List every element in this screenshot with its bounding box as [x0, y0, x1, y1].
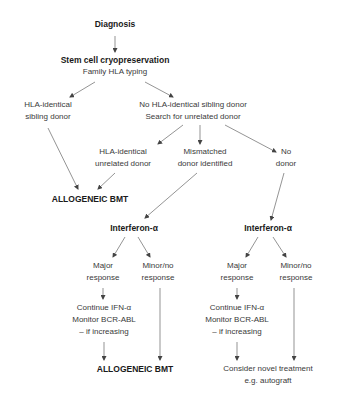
- node-hla-unrelated-line-1: HLA-identical: [95, 146, 151, 158]
- node-no-sibling-line-2: Search for unrelated donor: [139, 111, 247, 123]
- node-mismatched: Mismatched donor identified: [178, 146, 233, 170]
- node-novel-line-2: e.g. autograft: [223, 375, 312, 387]
- node-interferon-right-text: Interferon-α: [244, 222, 292, 234]
- node-major-right-line-2: response: [221, 272, 254, 284]
- node-hla-sibling-line-2: sibling donor: [24, 111, 72, 123]
- node-hla-unrelated-line-2: unrelated donor: [95, 158, 151, 170]
- node-mismatched-line-2: donor identified: [178, 158, 233, 170]
- node-stem-cell-title: Stem cell cryopreservation: [61, 54, 170, 66]
- node-continue-ifn-right: Continue IFN-α Monitor BCR-ABL – if incr…: [205, 302, 269, 338]
- node-allogeneic-bmt-1: ALLOGENEIC BMT: [52, 193, 129, 205]
- node-interferon-left: Interferon-α: [110, 222, 158, 234]
- node-diagnosis-text: Diagnosis: [95, 18, 136, 30]
- node-continue-ifn-left: Continue IFN-α Monitor BCR-ABL – if incr…: [72, 302, 136, 338]
- node-minor-response-right: Minor/no response: [280, 260, 313, 284]
- node-interferon-left-text: Interferon-α: [110, 222, 158, 234]
- node-allogeneic-bmt-1-text: ALLOGENEIC BMT: [52, 193, 129, 205]
- node-interferon-right: Interferon-α: [244, 222, 292, 234]
- node-major-response-right: Major response: [221, 260, 254, 284]
- node-novel-line-1: Consider novel treatment: [223, 363, 312, 375]
- edge-sibling-allobmt: [48, 128, 78, 189]
- edge-stemcell-sibling: [70, 82, 95, 97]
- node-continue-left-line-2: Monitor BCR-ABL: [72, 314, 136, 326]
- edge-ifnleft-majorleft: [113, 237, 125, 257]
- edge-nosibling-nodonor: [225, 125, 276, 152]
- edge-mismatched-ifnleft: [145, 173, 197, 218]
- node-major-response-left: Major response: [87, 260, 120, 284]
- node-minor-left-line-1: Minor/no: [142, 260, 175, 272]
- edge-ifnleft-minorleft: [138, 237, 150, 257]
- node-allogeneic-bmt-2: ALLOGENEIC BMT: [97, 363, 174, 375]
- edge-ifnright-minorright: [273, 237, 286, 257]
- node-continue-right-line-1: Continue IFN-α: [205, 302, 269, 314]
- node-continue-right-line-2: Monitor BCR-ABL: [205, 314, 269, 326]
- node-stem-cell: Stem cell cryopreservation Family HLA ty…: [61, 54, 170, 78]
- node-no-sibling: No HLA-identical sibling donor Search fo…: [139, 99, 247, 123]
- node-major-right-line-1: Major: [221, 260, 254, 272]
- node-continue-left-line-3: – if increasing: [72, 326, 136, 338]
- node-minor-response-left: Minor/no response: [142, 260, 175, 284]
- edge-ifnright-majorright: [246, 237, 258, 257]
- node-minor-left-line-2: response: [142, 272, 175, 284]
- node-diagnosis: Diagnosis: [95, 18, 136, 30]
- node-minor-right-line-1: Minor/no: [280, 260, 313, 272]
- node-major-left-line-1: Major: [87, 260, 120, 272]
- node-mismatched-line-1: Mismatched: [178, 146, 233, 158]
- node-hla-unrelated: HLA-identical unrelated donor: [95, 146, 151, 170]
- node-allogeneic-bmt-2-text: ALLOGENEIC BMT: [97, 363, 174, 375]
- node-major-left-line-2: response: [87, 272, 120, 284]
- edge-nodonor-ifnright: [271, 173, 284, 220]
- node-no-donor-line-2: donor: [276, 158, 296, 170]
- edge-unrelated-allobmt: [98, 173, 115, 189]
- node-novel-treatment: Consider novel treatment e.g. autograft: [223, 363, 312, 387]
- edge-stemcell-nosibling: [145, 82, 173, 97]
- edge-nosibling-unrelated: [158, 125, 183, 144]
- node-no-donor-line-1: No: [276, 146, 296, 158]
- node-hla-sibling-line-1: HLA-identical: [24, 99, 72, 111]
- node-minor-right-line-2: response: [280, 272, 313, 284]
- node-continue-left-line-1: Continue IFN-α: [72, 302, 136, 314]
- node-no-sibling-line-1: No HLA-identical sibling donor: [139, 99, 247, 111]
- node-stem-cell-subtitle: Family HLA typing: [61, 66, 170, 78]
- node-no-donor: No donor: [276, 146, 296, 170]
- node-continue-right-line-3: – if increasing: [205, 326, 269, 338]
- node-hla-sibling: HLA-identical sibling donor: [24, 99, 72, 123]
